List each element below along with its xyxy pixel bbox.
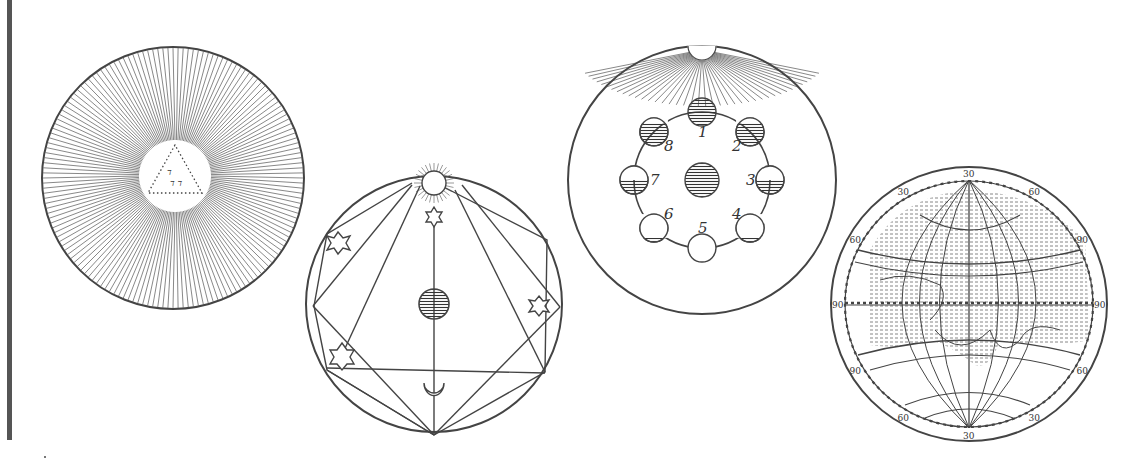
phase-label: 4: [731, 205, 742, 223]
illustrations: ד ד ד 12345678: [0, 0, 1128, 470]
phase-label: 6: [664, 205, 674, 223]
phase-label: 7: [650, 171, 660, 189]
degree-label: 30: [898, 187, 910, 197]
degree-label: 60: [898, 413, 910, 423]
star-icon: [426, 207, 442, 227]
phase-label: 1: [698, 123, 708, 141]
degree-label: 90: [850, 366, 862, 376]
degree-label: 60: [850, 235, 862, 245]
hebrew-letter-glyph: ד: [167, 167, 172, 177]
degree-label: 90: [1076, 235, 1088, 245]
radiant-sun-figure: ד ד ד: [42, 47, 304, 309]
star-icon: [327, 232, 350, 254]
degree-label: 90: [1094, 300, 1106, 310]
degree-label: 90: [832, 300, 844, 310]
degree-label: 30: [963, 431, 975, 441]
phase-label: 3: [746, 171, 756, 189]
world-map-globe-figure: 306090906030306090906030: [831, 167, 1107, 441]
degree-label: 60: [1076, 366, 1088, 376]
phase-label: 8: [664, 137, 674, 155]
star-icon: [330, 343, 354, 370]
planetary-aspects-figure: [306, 163, 562, 435]
lunar-phases-figure: 12345678: [568, 46, 836, 314]
phase-label: 5: [698, 219, 708, 237]
degree-label: 30: [963, 169, 975, 179]
degree-label: 60: [1029, 187, 1041, 197]
hebrew-letter-glyph: ד ד: [170, 178, 183, 188]
phase-label: 2: [731, 137, 742, 155]
degree-label: 30: [1029, 413, 1041, 423]
